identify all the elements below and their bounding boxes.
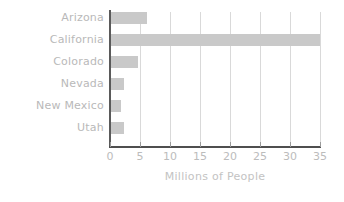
x-tick-label-35: 35 xyxy=(305,150,335,164)
tick-mark-35 xyxy=(320,142,321,147)
bar-new-mexico xyxy=(110,100,121,112)
gridline-25 xyxy=(260,12,261,146)
bar-utah xyxy=(110,122,124,134)
x-tick-label-30: 30 xyxy=(275,150,305,164)
gridline-35 xyxy=(320,12,321,146)
x-tick-label-25: 25 xyxy=(245,150,275,164)
category-label-utah: Utah xyxy=(77,122,104,134)
gridline-30 xyxy=(290,12,291,146)
bar-arizona xyxy=(110,12,147,24)
x-axis-title: Millions of People xyxy=(110,170,320,184)
x-tick-label-0: 0 xyxy=(95,150,125,164)
category-label-colorado: Colorado xyxy=(53,56,104,68)
bar-chart: Arizona California Colorado Nevada New M… xyxy=(0,0,344,202)
bar-nevada xyxy=(110,78,124,90)
tick-mark-0 xyxy=(110,142,111,147)
plot-area xyxy=(110,12,320,146)
gridline-5 xyxy=(140,12,141,146)
category-axis-labels: Arizona California Colorado Nevada New M… xyxy=(0,12,106,146)
bar-california xyxy=(110,34,320,46)
x-tick-label-10: 10 xyxy=(155,150,185,164)
category-label-california: California xyxy=(50,34,104,46)
category-label-nevada: Nevada xyxy=(61,78,104,90)
tick-mark-25 xyxy=(260,142,261,147)
tick-mark-30 xyxy=(290,142,291,147)
gridline-10 xyxy=(170,12,171,146)
gridline-15 xyxy=(200,12,201,146)
tick-mark-15 xyxy=(200,142,201,147)
x-tick-label-15: 15 xyxy=(185,150,215,164)
x-tick-label-20: 20 xyxy=(215,150,245,164)
category-label-arizona: Arizona xyxy=(61,12,104,24)
tick-mark-20 xyxy=(230,142,231,147)
category-label-new-mexico: New Mexico xyxy=(36,100,104,112)
y-axis-line xyxy=(109,10,111,148)
bar-colorado xyxy=(110,56,138,68)
tick-mark-10 xyxy=(170,142,171,147)
gridline-20 xyxy=(230,12,231,146)
x-tick-label-5: 5 xyxy=(125,150,155,164)
tick-mark-5 xyxy=(140,142,141,147)
